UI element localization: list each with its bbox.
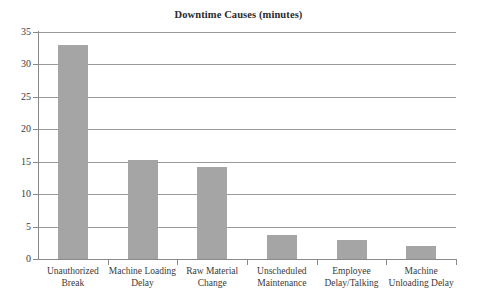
y-axis-tick-mark xyxy=(33,32,38,33)
bar xyxy=(197,167,227,259)
x-axis-category-label: MachineUnloading Delay xyxy=(386,266,456,289)
y-axis-tick-label: 25 xyxy=(5,92,31,102)
y-axis-tick-label: 0 xyxy=(5,254,31,264)
x-axis-category-label-line: Machine xyxy=(386,266,456,278)
x-axis-category-label: EmployeeDelay/Talking xyxy=(317,266,387,289)
x-axis-category-label-line: Break xyxy=(38,278,108,290)
x-axis-tick-mark xyxy=(386,260,387,265)
x-axis-tick-mark xyxy=(108,260,109,265)
x-axis-category-label-line: Delay/Talking xyxy=(317,278,387,290)
y-axis-tick-mark xyxy=(33,129,38,130)
y-axis-tick-label: 35 xyxy=(5,27,31,37)
y-axis-tick-label: 10 xyxy=(5,189,31,199)
x-axis-category-label: Machine LoadingDelay xyxy=(108,266,178,289)
bar xyxy=(267,235,297,259)
bar-chart: Downtime Causes (minutes) 05101520253035… xyxy=(0,0,477,295)
x-axis-tick-mark xyxy=(317,260,318,265)
bar xyxy=(128,160,158,259)
x-axis-category-label-line: Maintenance xyxy=(247,278,317,290)
x-axis-category-label-line: Machine Loading xyxy=(108,266,178,278)
chart-title: Downtime Causes (minutes) xyxy=(0,9,477,20)
bar xyxy=(406,246,436,259)
x-axis-tick-mark xyxy=(247,260,248,265)
y-axis-tick-mark xyxy=(33,64,38,65)
y-axis-tick-label: 20 xyxy=(5,124,31,134)
bars-layer xyxy=(38,32,456,259)
x-axis-category-label: UnscheduledMaintenance xyxy=(247,266,317,289)
x-axis-category-label-line: Unloading Delay xyxy=(386,278,456,290)
bar xyxy=(58,45,88,259)
x-axis-tick-mark xyxy=(456,260,457,265)
x-axis-category-label-line: Raw Material xyxy=(177,266,247,278)
y-axis-tick-labels: 05101520253035 xyxy=(0,0,31,295)
y-axis-tick-mark xyxy=(33,97,38,98)
y-axis-tick-label: 30 xyxy=(5,59,31,69)
y-axis-tick-mark xyxy=(33,162,38,163)
y-axis-tick-label: 15 xyxy=(5,157,31,167)
x-axis-category-label-line: Unscheduled xyxy=(247,266,317,278)
y-axis-tick-mark xyxy=(33,227,38,228)
x-axis-category-label-line: Unauthorized xyxy=(38,266,108,278)
x-axis-category-label: Raw MaterialChange xyxy=(177,266,247,289)
x-axis-category-label-line: Change xyxy=(177,278,247,290)
bar xyxy=(337,240,367,259)
y-axis-tick-mark xyxy=(33,259,38,260)
x-axis-category-label-line: Delay xyxy=(108,278,178,290)
y-axis-tick-mark xyxy=(33,194,38,195)
y-axis-tick-label: 5 xyxy=(5,222,31,232)
x-axis-category-label: UnauthorizedBreak xyxy=(38,266,108,289)
x-axis-category-label-line: Employee xyxy=(317,266,387,278)
x-axis-tick-mark xyxy=(177,260,178,265)
